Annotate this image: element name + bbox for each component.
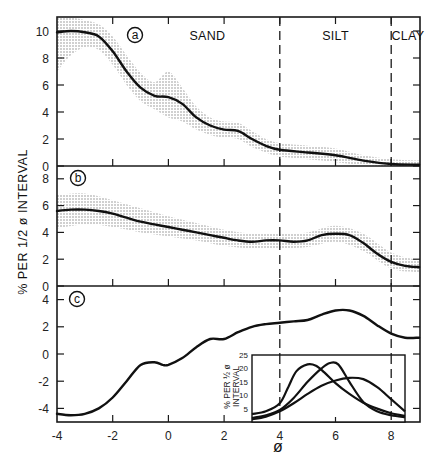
panel-c-label: c (74, 292, 80, 306)
panel-a-band (57, 17, 419, 166)
inset-y-tick-label: 25 (239, 351, 248, 360)
y-tick-label: 8 (42, 52, 49, 66)
panel-a-curve (57, 31, 419, 165)
panel-b-band (57, 193, 419, 272)
zone-label-sand: SAND (189, 29, 225, 43)
y-tick-label: 6 (42, 199, 49, 213)
y-tick-label: 6 (42, 79, 49, 93)
zone-labels: SANDSILTCLAY (189, 29, 424, 43)
panel-a-label: a (132, 28, 139, 42)
x-axis-title: ø (273, 438, 283, 455)
y-tick-label: -2 (38, 375, 49, 389)
inset-chart: 510152025% PER ½ øINTERVAL (222, 351, 405, 422)
y-tick-label: 8 (42, 172, 49, 186)
y-tick-label: -4 (38, 402, 49, 416)
zone-label-clay: CLAY (391, 29, 424, 43)
y-axis-title: % PER 1/2 ø INTERVAL (16, 149, 30, 295)
x-tick-label: 6 (332, 429, 339, 443)
x-tick-label: -4 (52, 429, 63, 443)
confidence-bands (57, 17, 419, 272)
y-tick-label: 2 (42, 320, 49, 334)
y-tick-label: 2 (42, 253, 49, 267)
zone-label-silt: SILT (322, 29, 349, 43)
x-tick-label: 8 (388, 429, 395, 443)
x-tick-label: 2 (221, 429, 228, 443)
y-tick-label: 10 (36, 25, 50, 39)
y-tick-label: 4 (42, 226, 49, 240)
inset-y-tick-label: 5 (244, 405, 249, 414)
inset-y-axis-title-2: INTERVAL (231, 366, 241, 407)
y-tick-label: 0 (42, 348, 49, 362)
x-tick-label: 0 (165, 429, 172, 443)
panel-b-label: b (75, 171, 82, 185)
y-tick-label: 2 (42, 133, 49, 147)
grain-size-chart: 024681002468-4-2024-4-202468 SANDSILTCLA… (0, 0, 437, 468)
y-tick-label: 4 (42, 106, 49, 120)
y-tick-label: 0 (42, 280, 49, 294)
x-tick-label: -2 (107, 429, 118, 443)
y-tick-label: 4 (42, 293, 49, 307)
